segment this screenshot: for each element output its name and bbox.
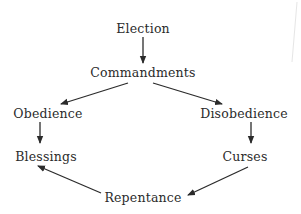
- page-edge-artifact: [292, 2, 297, 62]
- node-commandments: Commandments: [90, 65, 195, 80]
- arrow-repentance-to-blessings: [38, 166, 101, 193]
- node-election: Election: [116, 21, 170, 36]
- node-repentance: Repentance: [104, 190, 181, 205]
- node-disobedience: Disobedience: [200, 106, 288, 121]
- flow-diagram: Election Commandments Obedience Disobedi…: [0, 0, 301, 214]
- arrow-commandments-to-disobedience: [153, 83, 222, 104]
- node-blessings: Blessings: [15, 149, 77, 164]
- arrow-commandments-to-obedience: [61, 83, 128, 104]
- node-obedience: Obedience: [13, 106, 82, 121]
- arrow-curses-to-repentance: [188, 167, 248, 195]
- node-curses: Curses: [222, 149, 267, 164]
